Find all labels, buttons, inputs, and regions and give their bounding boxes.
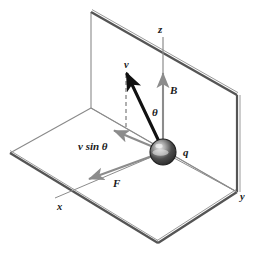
label-velocity: v — [124, 59, 129, 70]
label-x-axis: x — [56, 201, 62, 212]
charged-sphere — [150, 139, 176, 165]
label-force: F — [112, 177, 121, 189]
physics-diagram-svg: z B θ v v sin θ F q x y — [0, 0, 258, 255]
label-angle-theta: θ — [152, 106, 158, 118]
label-magnetic-field: B — [169, 84, 177, 96]
diagram-canvas: z B θ v v sin θ F q x y — [0, 0, 258, 255]
label-charge-q: q — [183, 146, 189, 158]
label-y-axis: y — [238, 191, 245, 202]
horizontal-plane-xy — [10, 108, 237, 243]
label-velocity-component: v sin θ — [78, 140, 108, 152]
label-z-axis: z — [157, 23, 163, 35]
